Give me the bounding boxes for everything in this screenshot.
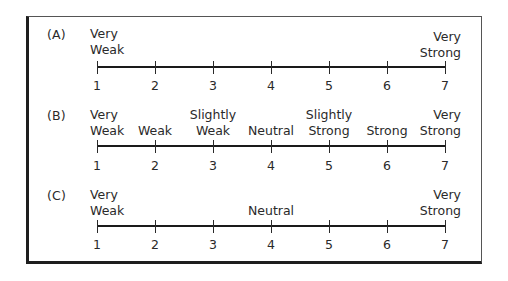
- tick-5: [329, 140, 330, 153]
- tick-7: [445, 140, 446, 153]
- anchor-line1: Very: [381, 187, 461, 203]
- anchor-very-weak: Very Weak: [90, 187, 170, 219]
- tick-number: 4: [261, 78, 281, 93]
- scale-c: (C) Very Weak Neutral Very Strong 1 2 3 …: [0, 0, 508, 80]
- tick-number: 1: [87, 158, 107, 173]
- tick-6: [387, 220, 388, 233]
- tick-4: [271, 140, 272, 153]
- tick-3: [213, 220, 214, 233]
- scale-label: (B): [47, 108, 66, 123]
- tick-number: 3: [203, 158, 223, 173]
- tick-4: [271, 220, 272, 233]
- tick-number: 6: [377, 158, 397, 173]
- tick-5: [329, 220, 330, 233]
- tick-number: 5: [319, 237, 339, 252]
- anchor-line2: Strong: [381, 123, 461, 139]
- tick-2: [155, 140, 156, 153]
- tick-number: 5: [319, 78, 339, 93]
- tick-3: [213, 140, 214, 153]
- tick-number: 2: [145, 158, 165, 173]
- tick-number: 7: [435, 158, 455, 173]
- tick-number: 6: [377, 237, 397, 252]
- tick-6: [387, 140, 388, 153]
- anchor-line1: Very: [381, 107, 461, 123]
- anchor-line2: Weak: [90, 203, 170, 219]
- anchor-line2: Strong: [381, 203, 461, 219]
- scale-label: (C): [47, 188, 66, 203]
- tick-number: 2: [145, 237, 165, 252]
- tick-number: 1: [87, 237, 107, 252]
- tick-number: 4: [261, 237, 281, 252]
- tick-7: [445, 220, 446, 233]
- tick-number: 3: [203, 78, 223, 93]
- anchor-very-strong: Very Strong: [381, 187, 461, 219]
- tick-number: 7: [435, 78, 455, 93]
- anchor-line1: Very: [90, 187, 170, 203]
- tick-1: [97, 140, 98, 153]
- tick-1: [97, 220, 98, 233]
- tick-number: 4: [261, 158, 281, 173]
- tick-number: 7: [435, 237, 455, 252]
- anchor-neutral: Neutral: [231, 187, 311, 219]
- tick-number: 6: [377, 78, 397, 93]
- anchor-line2: Neutral: [231, 203, 311, 219]
- tick-2: [155, 220, 156, 233]
- anchor-very-strong: Very Strong: [381, 107, 461, 139]
- tick-number: 1: [87, 78, 107, 93]
- tick-number: 3: [203, 237, 223, 252]
- anchor-line1: [231, 187, 311, 203]
- tick-number: 5: [319, 158, 339, 173]
- tick-number: 2: [145, 78, 165, 93]
